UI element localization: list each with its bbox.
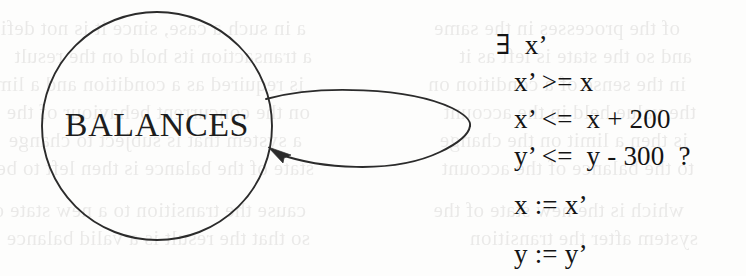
annotation-line-quantifier: ∃ x’ bbox=[496, 30, 691, 60]
self-loop-lower-arc bbox=[279, 126, 470, 167]
figure-canvas: a in such a case, since it is not define… bbox=[0, 0, 746, 276]
self-loop-upper-arc bbox=[266, 90, 470, 126]
annotation-line-guard-2: x’ <= x + 200 bbox=[514, 104, 691, 134]
self-loop-arrowhead-icon bbox=[268, 147, 291, 163]
state-label-balances: BALANCES bbox=[42, 106, 272, 144]
annotation-line-assign-1: x := x’ bbox=[514, 190, 691, 220]
annotation-line-guard-1: x’ >= x bbox=[514, 67, 691, 97]
transition-annotation: ∃ x’ x’ >= x x’ <= x + 200 y’ <= y - 300… bbox=[496, 30, 691, 275]
annotation-line-guard-3: y’ <= y - 300 ? bbox=[514, 141, 691, 171]
annotation-line-assign-2: y := y’ bbox=[514, 239, 691, 269]
